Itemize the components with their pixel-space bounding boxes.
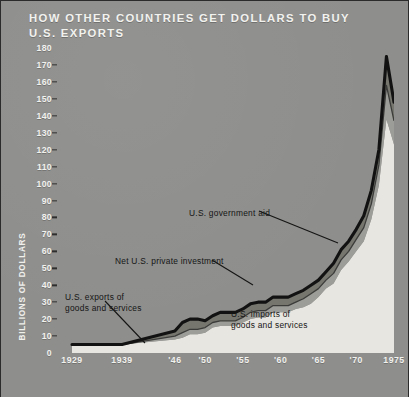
y-tick-mark [52, 335, 57, 336]
y-tick-mark [52, 132, 57, 133]
y-tick-mark [52, 234, 57, 235]
y-tick-label: 60 [42, 246, 52, 256]
x-tick-label: 1975 [383, 355, 404, 365]
chart-title-line-2: U.S. EXPORTS [29, 26, 389, 41]
y-tick-label: 160 [37, 77, 52, 87]
y-axis-title: BILLIONS OF DOLLARS [18, 222, 27, 352]
y-tick-mark [52, 200, 57, 201]
y-tick-label: 120 [37, 145, 52, 155]
y-tick-mark [52, 285, 57, 286]
y-tick-label: 0 [47, 348, 52, 358]
x-tick-label: '55 [236, 355, 249, 365]
y-tick-label: 40 [42, 280, 52, 290]
y-tick-mark [52, 115, 57, 116]
y-tick-label: 150 [37, 94, 52, 104]
x-tick-label: '70 [350, 355, 363, 365]
annotation-imports-line-1: U.S. imports of [231, 309, 290, 319]
x-tick-label: 1929 [61, 355, 82, 365]
x-tick-label: '60 [274, 355, 287, 365]
y-tick-mark [52, 64, 57, 65]
y-tick-mark [52, 217, 57, 218]
y-tick-label: 180 [37, 43, 52, 53]
y-tick-mark [52, 318, 57, 319]
y-tick-label: 70 [42, 229, 52, 239]
y-tick-mark [52, 302, 57, 303]
annotation-private-investment: Net U.S. private investment [115, 256, 224, 267]
y-tick-label: 80 [42, 212, 52, 222]
x-tick-label: '46 [168, 355, 181, 365]
annotation-private-investment-text: Net U.S. private investment [115, 256, 224, 266]
y-tick-mark [52, 81, 57, 82]
y-tick-mark [52, 268, 57, 269]
x-tick-label: 1939 [111, 355, 132, 365]
annotation-government-aid-text: U.S. government aid [189, 208, 270, 218]
y-tick-label: 100 [37, 179, 52, 189]
annotation-imports: U.S. imports of goods and services [231, 309, 308, 331]
chart-title-line-1: HOW OTHER COUNTRIES GET DOLLARS TO BUY [29, 12, 350, 24]
annotation-imports-line-2: goods and services [231, 320, 308, 331]
y-tick-label: 110 [37, 162, 52, 172]
annotation-exports-line-2: goods and services [65, 303, 142, 314]
y-tick-label: 10 [42, 331, 52, 341]
annotation-exports: U.S. exports of goods and services [65, 292, 142, 314]
y-tick-mark [52, 98, 57, 99]
y-tick-label: 20 [42, 314, 52, 324]
y-tick-label: 30 [42, 297, 52, 307]
chart-figure: HOW OTHER COUNTRIES GET DOLLARS TO BUY U… [0, 0, 409, 397]
y-tick-label: 130 [37, 128, 52, 138]
x-tick-label: '65 [312, 355, 325, 365]
y-tick-label: 140 [37, 111, 52, 121]
annotation-government-aid: U.S. government aid [189, 208, 270, 219]
y-tick-mark [52, 251, 57, 252]
y-tick-mark [52, 166, 57, 167]
x-tick-label: '50 [198, 355, 211, 365]
y-tick-label: 50 [42, 263, 52, 273]
y-tick-mark [52, 149, 57, 150]
y-tick-mark [52, 183, 57, 184]
annotation-exports-line-1: U.S. exports of [65, 292, 124, 302]
chart-title: HOW OTHER COUNTRIES GET DOLLARS TO BUY U… [29, 11, 389, 40]
y-tick-label: 170 [37, 60, 52, 70]
y-tick-label: 90 [42, 196, 52, 206]
